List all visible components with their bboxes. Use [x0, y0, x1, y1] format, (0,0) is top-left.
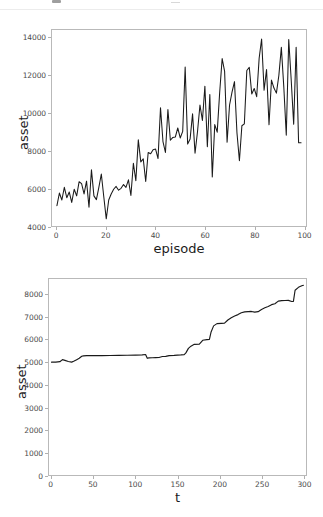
- chart2-y-tick-mark: [45, 339, 48, 340]
- chart2-plot-area: [48, 278, 307, 476]
- chart1-y-tick-label: 6000: [0, 184, 46, 193]
- chart1-x-tick-mark: [255, 227, 256, 230]
- chart2-y-tick-mark: [45, 430, 48, 431]
- chart2-x-tick-label: 150: [170, 480, 184, 489]
- chart1-y-tick-mark: [48, 227, 51, 228]
- chart1-y-axis-title: asset: [16, 115, 31, 150]
- chart2-x-tick-label: 0: [48, 480, 53, 489]
- chart1-y-tick-mark: [48, 151, 51, 152]
- chart1-y-tick-label: 10000: [0, 108, 46, 117]
- chart2-x-tick-label: 100: [128, 480, 142, 489]
- chart2-x-tick-mark: [51, 476, 52, 479]
- chart2-x-axis-title: t: [48, 490, 307, 505]
- chart2-y-tick-label: 1000: [0, 449, 43, 458]
- chart2-y-tick-label: 6000: [0, 335, 43, 344]
- chart2-y-tick-label: 4000: [0, 380, 43, 389]
- chart2-y-tick-label: 2000: [0, 426, 43, 435]
- chart2-x-tick-label: 50: [88, 480, 97, 489]
- chart1-x-tick-mark: [205, 227, 206, 230]
- episode-asset-plot-wrapper: asset 400060008000100001200014000 020406…: [0, 9, 323, 261]
- chart2-x-tick-label: 200: [213, 480, 227, 489]
- chart1-x-tick-label: 80: [250, 231, 259, 240]
- chart2-y-tick-label: 7000: [0, 312, 43, 321]
- chart2-y-tick-label: 3000: [0, 403, 43, 412]
- chart1-x-tick-mark: [56, 227, 57, 230]
- chart1-x-tick-label: 20: [101, 231, 110, 240]
- chart2-x-tick-mark: [135, 476, 136, 479]
- chart2-x-tick-mark: [178, 476, 179, 479]
- chart2-x-tick-label: 300: [297, 480, 311, 489]
- chart2-y-tick-label: 5000: [0, 358, 43, 367]
- episode-asset-figure: asset 400060008000100001200014000 020406…: [0, 9, 323, 261]
- chart1-x-tick-label: 60: [200, 231, 209, 240]
- chart1-y-tick-label: 8000: [0, 146, 46, 155]
- chart2-y-tick-mark: [45, 317, 48, 318]
- chart2-y-tick-mark: [45, 385, 48, 386]
- chart1-x-tick-mark: [155, 227, 156, 230]
- chart1-x-tick-label: 40: [151, 231, 160, 240]
- chart1-y-tick-label: 4000: [0, 223, 46, 232]
- chart2-y-tick-mark: [45, 408, 48, 409]
- chart2-y-tick-mark: [45, 294, 48, 295]
- chart2-x-tick-label: 250: [255, 480, 269, 489]
- cropped-glyph-fragment: [52, 0, 61, 3]
- chart1-y-tick-mark: [48, 113, 51, 114]
- chart1-x-tick-mark: [106, 227, 107, 230]
- chart2-y-tick-mark: [45, 453, 48, 454]
- chart1-y-tick-mark: [48, 37, 51, 38]
- t-asset-plot-wrapper: asset 010002000300040005000600070008000 …: [0, 261, 323, 517]
- cropped-glyph-fragment-2: [171, 2, 180, 3]
- chart2-y-tick-label: 8000: [0, 289, 43, 298]
- chart1-y-tick-mark: [48, 75, 51, 76]
- chart1-y-tick-label: 12000: [0, 70, 46, 79]
- t-asset-figure: asset 010002000300040005000600070008000 …: [0, 261, 323, 517]
- chart1-x-tick-label: 100: [297, 231, 311, 240]
- chart1-x-tick-mark: [305, 227, 306, 230]
- chart1-y-tick-label: 14000: [0, 32, 46, 41]
- chart1-line-series: [52, 30, 306, 226]
- chart2-x-tick-mark: [93, 476, 94, 479]
- chart1-x-axis-title: episode: [51, 241, 307, 256]
- chart1-plot-area: [51, 29, 307, 227]
- chart2-line-series: [49, 279, 306, 475]
- chart2-x-tick-mark: [304, 476, 305, 479]
- chart1-y-tick-mark: [48, 189, 51, 190]
- chart2-x-tick-mark: [262, 476, 263, 479]
- chart2-x-tick-mark: [220, 476, 221, 479]
- chart1-x-tick-label: 0: [54, 231, 59, 240]
- chart2-y-tick-mark: [45, 476, 48, 477]
- chart2-y-tick-label: 0: [0, 472, 43, 481]
- chart2-y-tick-mark: [45, 362, 48, 363]
